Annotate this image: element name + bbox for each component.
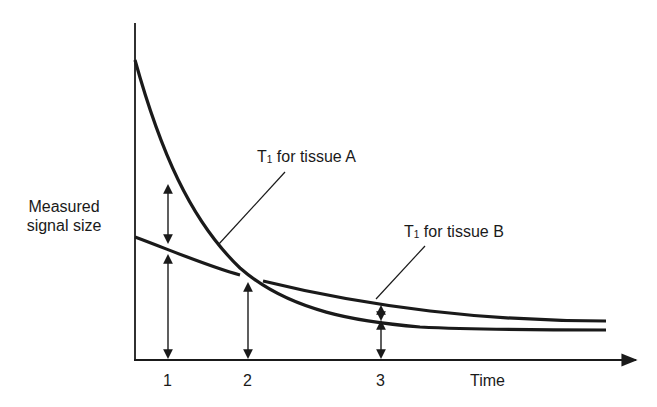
x-tick-3: 3 [376,371,385,390]
y-axis-label: Measured signal size [4,197,124,235]
annotation-tissue-b: T1 for tissue B [404,222,504,244]
curve-tissue-b-continued [263,281,606,321]
y-axis-label-line-2: signal size [4,216,124,235]
annotation-tissue-a-text: for tissue A [272,148,356,165]
annotation-tissue-a: T1 for tissue A [257,147,356,169]
leader-line-tissue-a [218,172,285,245]
x-tick-1: 1 [163,371,172,390]
leader-line-tissue-b [376,246,425,299]
annotation-tissue-b-text: for tissue B [419,223,503,240]
annotation-tissue-b-prefix: T [404,223,414,240]
curve-tissue-b [135,237,240,275]
curve-tissue-a [135,60,606,330]
x-tick-2: 2 [243,371,252,390]
x-axis-label: Time [470,371,505,390]
annotation-tissue-a-prefix: T [257,148,267,165]
y-axis-label-line-1: Measured [4,197,124,216]
